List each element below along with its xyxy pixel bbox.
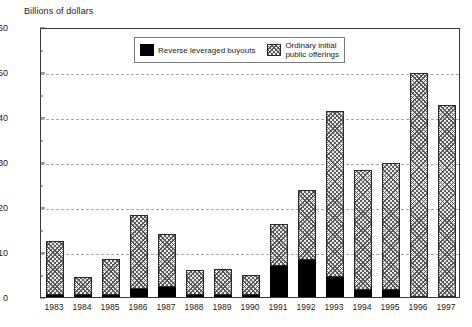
legend-label-2: Ordinary initial public offerings — [285, 41, 339, 59]
bar-segment-1987-rlbo — [158, 287, 175, 297]
bar-segment-1992-ipo — [298, 190, 315, 260]
bar-1989 — [214, 269, 231, 297]
x-tick-label-1984: 1984 — [73, 302, 92, 312]
y-tick-minor-15 — [40, 230, 43, 231]
bar-segment-1994-ipo — [354, 170, 371, 290]
y-tick-label-0: 0 — [0, 293, 8, 303]
legend-entry-1: Reverse leveraged buyouts — [140, 44, 255, 56]
x-tick-label-1985: 1985 — [101, 302, 120, 312]
y-tick-label-40: 40 — [0, 113, 8, 123]
legend-entry-2: Ordinary initial public offerings — [267, 41, 339, 59]
y-tick-major-60 — [40, 28, 45, 29]
y-tick-minor-5 — [40, 275, 43, 276]
bar-1986 — [130, 215, 147, 297]
bar-1983 — [46, 241, 63, 297]
bar-segment-1997-ipo — [438, 105, 455, 297]
x-tick-label-1997: 1997 — [437, 302, 456, 312]
x-tick-label-1989: 1989 — [213, 302, 232, 312]
bar-1984 — [74, 277, 91, 297]
y-tick-major-30 — [40, 163, 45, 164]
bar-segment-1986-rlbo — [130, 289, 147, 297]
bar-segment-1994-rlbo — [354, 290, 371, 297]
bar-segment-1988-ipo — [186, 270, 203, 295]
bar-1997 — [438, 105, 455, 297]
bar-segment-1986-ipo — [130, 215, 147, 289]
bar-1995 — [382, 163, 399, 297]
y-tick-major-50 — [40, 73, 45, 74]
y-tick-minor-55 — [40, 50, 43, 51]
x-tick-label-1996: 1996 — [409, 302, 428, 312]
y-tick-label-30: 30 — [0, 158, 8, 168]
bar-segment-1995-rlbo — [382, 290, 399, 297]
bar-segment-1989-rlbo — [214, 295, 231, 297]
bar-segment-1993-ipo — [326, 111, 343, 277]
bar-segment-1996-ipo — [410, 73, 427, 297]
y-tick-major-40 — [40, 118, 45, 119]
bar-1994 — [354, 170, 371, 297]
bar-segment-1990-rlbo — [242, 295, 259, 297]
bar-segment-1995-ipo — [382, 163, 399, 290]
bar-segment-1991-rlbo — [270, 266, 287, 297]
chart-figure: Billions of dollars 0102030405060 198319… — [0, 0, 472, 327]
bars-layer — [41, 29, 459, 297]
bar-segment-1989-ipo — [214, 269, 231, 295]
bar-segment-1988-rlbo — [186, 295, 203, 297]
y-tick-minor-25 — [40, 185, 43, 186]
bar-1985 — [102, 259, 119, 297]
bar-segment-1984-rlbo — [74, 295, 91, 297]
plot-area — [40, 28, 460, 298]
x-tick-label-1995: 1995 — [381, 302, 400, 312]
bar-1988 — [186, 270, 203, 297]
bar-segment-1987-ipo — [158, 234, 175, 287]
x-tick-label-1991: 1991 — [269, 302, 288, 312]
x-tick-label-1994: 1994 — [353, 302, 372, 312]
bar-segment-1993-rlbo — [326, 277, 343, 297]
bar-segment-1992-rlbo — [298, 260, 315, 297]
bar-segment-1983-rlbo — [46, 295, 63, 297]
bar-1993 — [326, 111, 343, 297]
bar-1991 — [270, 224, 287, 297]
y-tick-label-20: 20 — [0, 203, 8, 213]
x-tick-label-1990: 1990 — [241, 302, 260, 312]
x-tick-label-1988: 1988 — [185, 302, 204, 312]
y-tick-major-10 — [40, 253, 45, 254]
x-tick-label-1992: 1992 — [297, 302, 316, 312]
bar-segment-1990-ipo — [242, 275, 259, 295]
x-tick-label-1983: 1983 — [45, 302, 64, 312]
y-tick-label-50: 50 — [0, 68, 8, 78]
x-tick-label-1986: 1986 — [129, 302, 148, 312]
x-tick-label-1993: 1993 — [325, 302, 344, 312]
y-tick-major-0 — [40, 298, 45, 299]
legend-swatch-hatch — [267, 44, 281, 56]
y-tick-label-10: 10 — [0, 248, 8, 258]
bar-segment-1985-rlbo — [102, 295, 119, 297]
x-tick-label-1987: 1987 — [157, 302, 176, 312]
bar-1987 — [158, 234, 175, 297]
bar-1996 — [410, 73, 427, 297]
bar-segment-1983-ipo — [46, 241, 63, 295]
legend-label-1: Reverse leveraged buyouts — [158, 46, 255, 55]
bar-1990 — [242, 275, 259, 297]
y-tick-label-60: 60 — [0, 23, 8, 33]
bar-segment-1984-ipo — [74, 277, 91, 295]
y-tick-minor-45 — [40, 95, 43, 96]
bar-segment-1991-ipo — [270, 224, 287, 267]
y-tick-minor-35 — [40, 140, 43, 141]
legend-swatch-black — [140, 44, 154, 56]
bar-segment-1985-ipo — [102, 259, 119, 295]
y-axis-title: Billions of dollars — [24, 6, 93, 16]
bar-1992 — [298, 190, 315, 297]
y-tick-major-20 — [40, 208, 45, 209]
chart-legend: Reverse leveraged buyoutsOrdinary initia… — [134, 37, 345, 63]
